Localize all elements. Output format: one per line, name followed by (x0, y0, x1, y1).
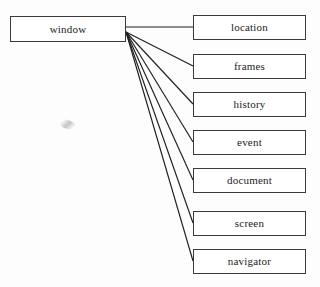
node-document-label: document (227, 175, 272, 186)
node-frames[interactable]: frames (193, 54, 306, 79)
node-navigator[interactable]: navigator (193, 249, 306, 274)
node-location[interactable]: location (193, 15, 306, 40)
node-window[interactable]: window (10, 16, 126, 42)
node-frames-label: frames (234, 61, 265, 72)
edge-window-to-document (126, 32, 193, 180)
node-document[interactable]: document (193, 168, 306, 193)
node-window-label: window (50, 23, 87, 34)
node-location-label: location (231, 22, 268, 33)
diagram-canvas: window location frames history event doc… (0, 0, 320, 287)
node-screen-label: screen (235, 218, 264, 229)
node-history-label: history (234, 99, 266, 110)
node-history[interactable]: history (193, 92, 306, 117)
edge-window-to-navigator (126, 32, 193, 261)
node-event-label: event (237, 137, 262, 148)
node-screen[interactable]: screen (193, 211, 306, 236)
node-navigator-label: navigator (228, 256, 271, 267)
node-event[interactable]: event (193, 130, 306, 155)
